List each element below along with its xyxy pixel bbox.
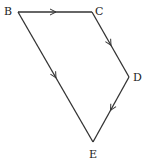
- label-d: D: [133, 71, 142, 84]
- label-e: E: [89, 148, 97, 161]
- vertex-labels: B C D E: [4, 5, 142, 161]
- label-c: C: [95, 5, 103, 18]
- arrowheads: [50, 9, 116, 112]
- vector-diagram: B C D E: [0, 0, 150, 166]
- edges: [18, 12, 129, 142]
- label-b: B: [4, 5, 12, 18]
